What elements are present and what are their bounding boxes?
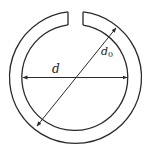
outer-diameter-label-subscript: 0	[108, 50, 113, 59]
outer-diameter-label: d0	[101, 45, 113, 59]
inner-diameter-label: d	[52, 62, 60, 76]
split-ring-diagram: d d0	[0, 0, 148, 151]
outer-diameter-label-base: d	[101, 45, 108, 58]
